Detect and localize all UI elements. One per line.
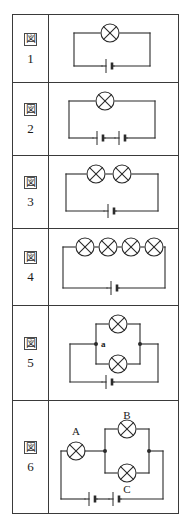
battery-cell-icon [106,59,112,73]
junction-dot-icon [94,342,98,346]
circuit-diagram-4 [49,229,178,305]
figure-number-4: 4 [27,270,34,283]
lamp-label-b: B [123,409,130,421]
lamp-label-a: A [72,425,80,437]
figure-label-cell-4: 図 4 [13,229,49,305]
circuit-diagram-1 [49,15,178,82]
kanji-zu-icon: 図 [24,251,37,264]
lamp-label-c: C [123,483,130,495]
kanji-zu-icon: 図 [24,103,37,116]
figure-label-cell-5: 図 5 [13,306,49,400]
kanji-zu-icon: 図 [24,33,37,46]
table-row: 図 1 [13,15,178,83]
kanji-zu-icon: 図 [24,441,37,454]
battery-cell-icon [97,131,103,145]
figure-number-2: 2 [27,122,34,135]
table-row: 図 6 A B C [13,401,178,513]
figure-label-cell-6: 図 6 [13,401,49,513]
circuit-diagram-3 [49,156,178,228]
junction-dot-icon [103,449,107,453]
node-label-a: a [101,339,106,349]
battery-cell-icon [119,131,125,145]
table-row: 図 5 [13,306,178,401]
battery-cell-icon [113,492,119,506]
figure-label-cell-2: 図 2 [13,83,49,155]
table-row: 図 3 [13,156,178,229]
junction-dot-icon [147,449,151,453]
kanji-zu-icon: 図 [24,176,37,189]
figure-label-cell-3: 図 3 [13,156,49,228]
circuit-diagram-6: A B C [49,401,178,513]
junction-dot-icon [138,342,142,346]
battery-cell-icon [89,492,95,506]
figure-number-1: 1 [27,52,34,65]
figure-table: 図 1 [12,14,179,514]
table-row: 図 2 [13,83,178,156]
table-row: 図 4 [13,229,178,306]
battery-cell-icon [111,281,117,295]
figure-number-3: 3 [27,195,34,208]
circuit-diagram-2 [49,83,178,155]
figure-number-5: 5 [27,356,34,369]
figure-label-cell-1: 図 1 [13,15,49,82]
kanji-zu-icon: 図 [24,337,37,350]
circuit-diagram-5: a [49,306,178,400]
figure-number-6: 6 [27,460,34,473]
battery-cell-icon [106,375,112,389]
battery-cell-icon [108,204,114,218]
